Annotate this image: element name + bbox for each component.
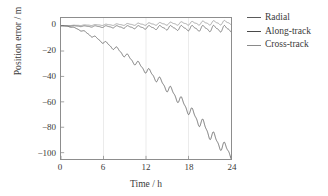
- legend-item-label: Along-track: [265, 27, 311, 37]
- x-tick-label: 12: [126, 163, 166, 172]
- chart-legend: RadialAlong-trackCross-track: [247, 13, 311, 50]
- y-tick-label: −80: [4, 123, 56, 132]
- legend-line-swatch-icon: [247, 45, 261, 46]
- y-tick-label: −40: [4, 72, 56, 81]
- y-tick-label: 0: [4, 20, 56, 29]
- chart-figure: Position error / m 0−20−40−60−80−100 061…: [0, 0, 328, 196]
- plot-canvas: [61, 18, 231, 159]
- x-axis-tick-labels: 06121824: [60, 163, 232, 177]
- y-tick-label: −20: [4, 46, 56, 55]
- x-tick-label: 6: [83, 163, 123, 172]
- legend-line-swatch-icon: [247, 17, 261, 18]
- x-tick-label: 24: [212, 163, 252, 172]
- legend-item-label: Radial: [265, 13, 290, 23]
- legend-item-label: Cross-track: [265, 40, 309, 50]
- y-tick-label: −60: [4, 98, 56, 107]
- y-tick-label: −100: [4, 149, 56, 158]
- legend-item-along-track[interactable]: Along-track: [247, 27, 311, 37]
- plot-area: [60, 17, 232, 160]
- legend-item-cross-track[interactable]: Cross-track: [247, 40, 311, 50]
- x-tick-label: 18: [169, 163, 209, 172]
- legend-line-swatch-icon: [247, 31, 261, 32]
- x-axis-title: Time / h: [60, 179, 232, 189]
- x-tick-label: 0: [40, 163, 80, 172]
- legend-item-radial[interactable]: Radial: [247, 13, 311, 23]
- y-axis-tick-labels: 0−20−40−60−80−100: [0, 17, 56, 160]
